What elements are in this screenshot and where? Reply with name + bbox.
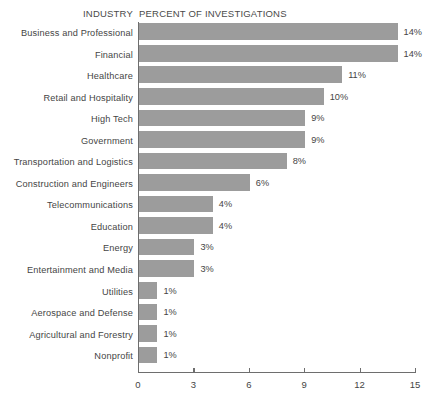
bar-row: Aerospace and Defense1% (0, 302, 428, 324)
bar-row: Education4% (0, 216, 428, 238)
bar-row: Agricultural and Forestry1% (0, 324, 428, 346)
category-label: Transportation and Logistics (0, 157, 133, 167)
bar (139, 45, 398, 62)
bar-value-label: 10% (330, 92, 348, 102)
category-label: Financial (0, 50, 133, 60)
x-tick-mark (360, 368, 361, 373)
bar (139, 88, 324, 105)
bar (139, 325, 157, 342)
bar-row: High Tech9% (0, 108, 428, 130)
category-label: Education (0, 222, 133, 232)
category-label: Utilities (0, 287, 133, 297)
category-label: Healthcare (0, 71, 133, 81)
bar-value-label: 3% (200, 264, 213, 274)
bar-chart: INDUSTRY PERCENT OF INVESTIGATIONS Busin… (0, 0, 428, 406)
bar-row: Construction and Engineers6% (0, 173, 428, 195)
bar (139, 196, 213, 213)
x-tick-mark (193, 368, 194, 373)
x-tick-label: 9 (302, 379, 307, 390)
bar (139, 23, 398, 40)
category-label: Construction and Engineers (0, 179, 133, 189)
bar (139, 66, 342, 83)
x-tick-mark (249, 368, 250, 373)
bar (139, 110, 305, 127)
bar-value-label: 14% (404, 27, 422, 37)
x-tick-mark (415, 368, 416, 373)
bar-value-label: 9% (311, 135, 324, 145)
bar-row: Business and Professional14% (0, 22, 428, 44)
bar-row: Energy3% (0, 237, 428, 259)
industry-column-header: INDUSTRY (0, 8, 133, 19)
bar-row: Transportation and Logistics8% (0, 151, 428, 173)
bar-row: Telecommunications4% (0, 194, 428, 216)
bar (139, 347, 157, 364)
category-label: Entertainment and Media (0, 265, 133, 275)
bar (139, 239, 194, 256)
bar (139, 304, 157, 321)
bar-value-label: 14% (404, 49, 422, 59)
bar (139, 282, 157, 299)
x-axis-line (138, 372, 415, 373)
x-tick-mark (138, 368, 139, 373)
chart-header: INDUSTRY PERCENT OF INVESTIGATIONS (0, 8, 428, 22)
bar-rows: Business and Professional14%Financial14%… (0, 22, 428, 367)
bar (139, 260, 194, 277)
bar-row: Nonprofit1% (0, 345, 428, 367)
x-tick-mark (304, 368, 305, 373)
bar-row: Entertainment and Media3% (0, 259, 428, 281)
x-tick-label: 15 (410, 379, 421, 390)
bar (139, 131, 305, 148)
bar-value-label: 1% (163, 286, 176, 296)
category-label: Retail and Hospitality (0, 93, 133, 103)
x-tick-label: 12 (354, 379, 365, 390)
bar-row: Government9% (0, 130, 428, 152)
plot-area: Business and Professional14%Financial14%… (0, 22, 428, 374)
bar-row: Financial14% (0, 44, 428, 66)
bar-value-label: 9% (311, 113, 324, 123)
bar-value-label: 4% (219, 199, 232, 209)
category-label: Energy (0, 243, 133, 253)
bar-value-label: 1% (163, 307, 176, 317)
category-label: Telecommunications (0, 200, 133, 210)
bar-value-label: 3% (200, 242, 213, 252)
bar-value-label: 8% (293, 156, 306, 166)
x-tick-label: 0 (135, 379, 140, 390)
category-label: Government (0, 136, 133, 146)
bar (139, 174, 250, 191)
bar-value-label: 6% (256, 178, 269, 188)
category-label: Aerospace and Defense (0, 308, 133, 318)
bar-value-label: 11% (348, 70, 366, 80)
category-label: Agricultural and Forestry (0, 330, 133, 340)
bar (139, 153, 287, 170)
category-label: High Tech (0, 114, 133, 124)
x-tick-label: 3 (191, 379, 196, 390)
bar-row: Healthcare11% (0, 65, 428, 87)
category-label: Nonprofit (0, 351, 133, 361)
x-axis: 03691215 (0, 372, 428, 406)
category-label: Business and Professional (0, 28, 133, 38)
bar-row: Utilities1% (0, 281, 428, 303)
x-tick-label: 6 (246, 379, 251, 390)
bar-value-label: 1% (163, 329, 176, 339)
bar-value-label: 1% (163, 350, 176, 360)
percent-column-header: PERCENT OF INVESTIGATIONS (139, 8, 287, 19)
bar-value-label: 4% (219, 221, 232, 231)
bar-row: Retail and Hospitality10% (0, 87, 428, 109)
bar (139, 217, 213, 234)
